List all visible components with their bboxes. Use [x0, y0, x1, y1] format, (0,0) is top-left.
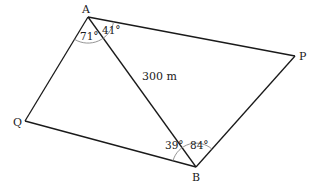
point-label-p: P	[299, 50, 307, 63]
point-label-a: A	[81, 3, 91, 16]
point-label-q: Q	[13, 116, 22, 129]
angle-label-b-left: 39°	[165, 139, 184, 151]
length-label-ab: 300 m	[142, 70, 177, 83]
angle-label-a-right: 41°	[102, 24, 121, 36]
geometry-diagram: A P B Q 71° 41° 39° 84° 300 m	[0, 0, 317, 186]
segment-ap	[88, 17, 295, 56]
angle-label-b-right: 84°	[190, 139, 209, 151]
segment-qa	[25, 17, 88, 121]
angle-label-a-left: 71°	[80, 30, 99, 42]
segment-pb	[196, 56, 295, 167]
point-label-b: B	[192, 171, 200, 184]
